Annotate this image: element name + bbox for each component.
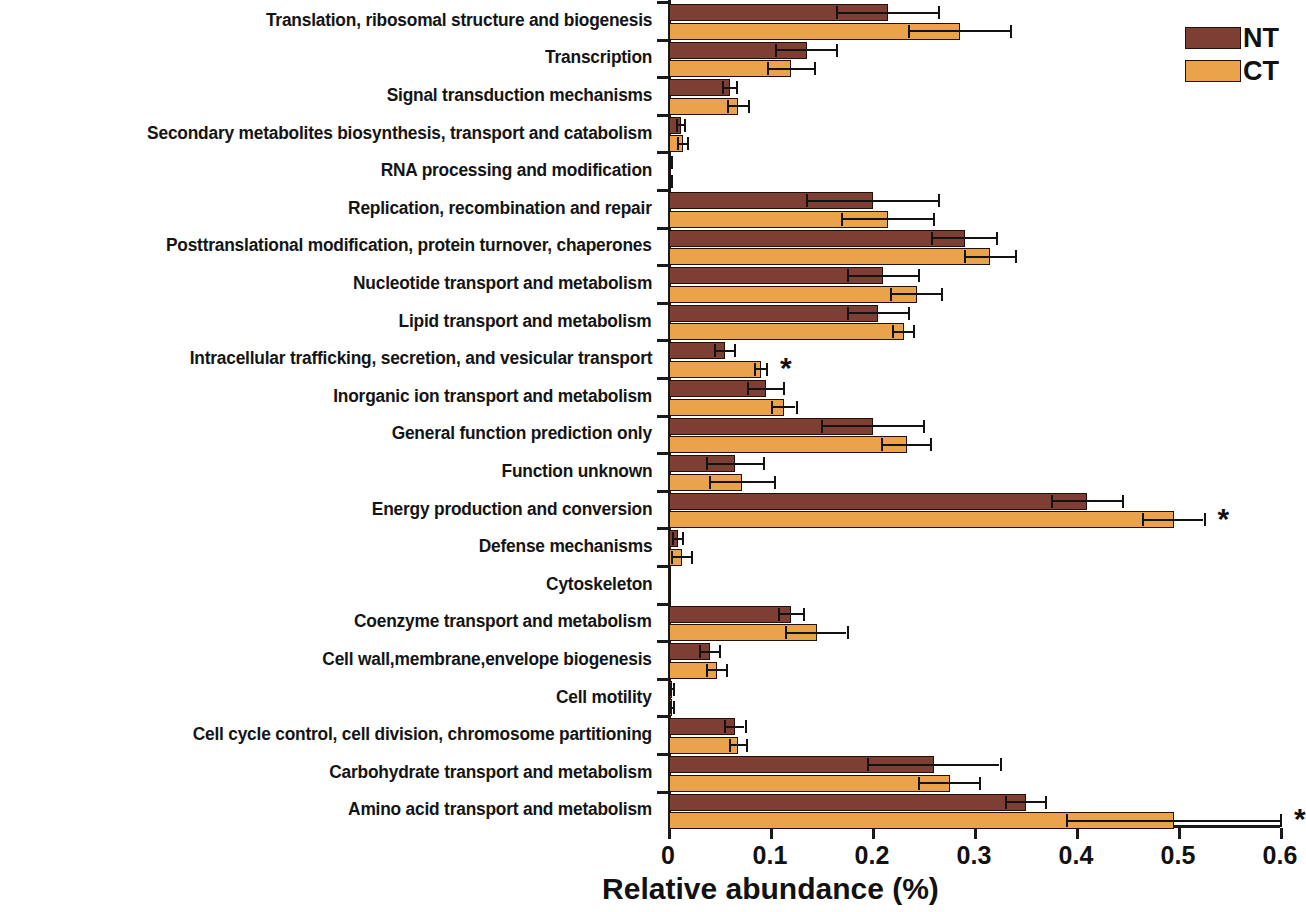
y-axis-tick bbox=[657, 227, 668, 230]
y-axis-tick bbox=[657, 264, 668, 267]
error-bar-cap bbox=[763, 457, 765, 470]
error-bar-cap bbox=[699, 645, 701, 658]
error-bar-cap bbox=[923, 420, 925, 433]
legend-swatch-ct bbox=[1185, 60, 1241, 82]
bar-ct bbox=[669, 248, 990, 265]
y-axis-tick bbox=[657, 565, 668, 568]
y-axis-tick bbox=[657, 339, 668, 342]
y-axis-tick bbox=[657, 603, 668, 606]
error-bar-line bbox=[785, 632, 846, 634]
error-bar-line bbox=[671, 556, 691, 558]
error-bar-cap bbox=[719, 645, 721, 658]
category-label: General function prediction only bbox=[392, 423, 652, 444]
legend-label-ct: CT bbox=[1243, 56, 1279, 87]
x-axis-tick bbox=[668, 828, 671, 839]
error-bar-cap bbox=[881, 438, 883, 451]
error-bar-cap bbox=[774, 476, 776, 489]
error-bar-cap bbox=[996, 232, 998, 245]
significance-asterisk: * bbox=[1218, 513, 1230, 525]
x-axis-tick-label: 0.2 bbox=[855, 841, 890, 870]
error-bar-line bbox=[964, 256, 1015, 258]
error-bar-line bbox=[767, 68, 814, 70]
error-bar-cap bbox=[706, 664, 708, 677]
error-bar-cap bbox=[736, 81, 738, 94]
error-bar-cap bbox=[691, 551, 693, 564]
error-bar-line bbox=[890, 293, 941, 295]
bar-nt bbox=[669, 606, 791, 623]
bar-ct bbox=[669, 775, 950, 792]
error-bar-cap bbox=[908, 25, 910, 38]
bar-ct bbox=[669, 323, 904, 340]
error-bar-line bbox=[724, 726, 744, 728]
error-bar-cap bbox=[671, 551, 673, 564]
error-bar-cap bbox=[938, 194, 940, 207]
y-axis-tick bbox=[657, 415, 668, 418]
x-axis-tick bbox=[1280, 828, 1283, 839]
error-bar-cap bbox=[726, 664, 728, 677]
category-label: Transcription bbox=[545, 47, 652, 68]
category-label: Energy production and conversion bbox=[371, 499, 652, 520]
category-label: Secondary metabolites biosynthesis, tran… bbox=[147, 123, 652, 144]
x-axis-title: Relative abundance (%) bbox=[602, 872, 939, 906]
error-bar-cap bbox=[676, 119, 678, 132]
error-bar-line bbox=[821, 425, 923, 427]
error-bar-cap bbox=[673, 683, 675, 696]
error-bar-cap bbox=[941, 288, 943, 301]
error-bar-line bbox=[727, 105, 747, 107]
error-bar-line bbox=[706, 669, 726, 671]
error-bar-cap bbox=[821, 420, 823, 433]
legend-swatch-nt bbox=[1185, 27, 1241, 49]
bar-ct bbox=[669, 286, 917, 303]
y-axis-tick bbox=[657, 678, 668, 681]
error-bar-cap bbox=[669, 701, 671, 714]
error-bar-cap bbox=[964, 250, 966, 263]
error-bar-line bbox=[722, 87, 736, 89]
error-bar-cap bbox=[747, 382, 749, 395]
error-bar-line bbox=[847, 312, 908, 314]
category-label: Inorganic ion transport and metabolism bbox=[333, 386, 652, 407]
y-axis-tick bbox=[657, 76, 668, 79]
bar-ct bbox=[669, 436, 907, 453]
error-bar-line bbox=[931, 237, 996, 239]
error-bar-cap bbox=[979, 777, 981, 790]
error-bar-line bbox=[847, 275, 918, 277]
error-bar-cap bbox=[767, 62, 769, 75]
category-label: Function unknown bbox=[501, 461, 652, 482]
category-label: Posttranslational modification, protein … bbox=[166, 235, 652, 256]
bar-ct bbox=[669, 361, 761, 378]
error-bar-cap bbox=[803, 608, 805, 621]
category-label: Coenzyme transport and metabolism bbox=[354, 611, 652, 632]
error-bar-cap bbox=[1051, 495, 1053, 508]
category-label: Defense mechanisms bbox=[478, 536, 652, 557]
bar-nt bbox=[669, 568, 671, 585]
error-bar-cap bbox=[672, 532, 674, 545]
error-bar-cap bbox=[1000, 758, 1002, 771]
error-bar-cap bbox=[673, 701, 675, 714]
x-axis-tick-label: 0 bbox=[661, 841, 675, 870]
x-axis-tick-label: 0.1 bbox=[753, 841, 788, 870]
error-bar-cap bbox=[918, 269, 920, 282]
error-bar-cap bbox=[746, 739, 748, 752]
category-label: Lipid transport and metabolism bbox=[399, 311, 652, 332]
y-axis-tick bbox=[657, 527, 668, 530]
bar-ct bbox=[669, 399, 784, 416]
significance-asterisk: * bbox=[780, 362, 792, 374]
category-label: RNA processing and modification bbox=[381, 160, 652, 181]
error-bar-line bbox=[771, 406, 795, 408]
category-label-column: Translation, ribosomal structure and bio… bbox=[0, 0, 660, 828]
y-axis-tick bbox=[657, 114, 668, 117]
error-bar-cap bbox=[930, 438, 932, 451]
bar-nt bbox=[669, 794, 1026, 811]
error-bar-cap bbox=[1010, 25, 1012, 38]
bar-ct bbox=[669, 587, 671, 604]
error-bar-line bbox=[729, 744, 745, 746]
error-bar-cap bbox=[706, 457, 708, 470]
error-bar-line bbox=[841, 218, 933, 220]
error-bar-cap bbox=[766, 363, 768, 376]
error-bar-cap bbox=[867, 758, 869, 771]
error-bar-line bbox=[1005, 801, 1046, 803]
error-bar-line bbox=[706, 463, 763, 465]
error-bar-cap bbox=[687, 137, 689, 150]
plot-area: *** 00.10.20.30.40.50.6 bbox=[668, 0, 1291, 828]
error-bar-cap bbox=[892, 325, 894, 338]
